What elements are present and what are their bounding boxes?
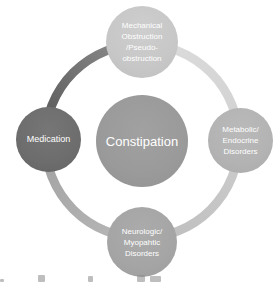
label-line: Neurologic/ bbox=[107, 226, 177, 237]
node-constipation-center: Constipation bbox=[96, 95, 188, 187]
caption-fragment bbox=[137, 275, 145, 282]
node-medication: Medication bbox=[16, 107, 81, 172]
label-line: Obstruction bbox=[106, 31, 178, 42]
label-line: Disorders bbox=[107, 248, 177, 259]
center-label: Constipation bbox=[96, 134, 188, 149]
label-line: Endocrine bbox=[208, 135, 273, 146]
caption-fragment bbox=[38, 275, 45, 282]
label-line: Medication bbox=[16, 134, 81, 145]
label-line: obstruction bbox=[106, 53, 178, 64]
node-mechanical-obstruction: Mechanical Obstruction /Pseudo- obstruct… bbox=[106, 6, 178, 78]
label-line: Metabolic/ bbox=[208, 124, 273, 135]
label-line: Myopahtic bbox=[107, 237, 177, 248]
node-mechanical-label: Mechanical Obstruction /Pseudo- obstruct… bbox=[106, 20, 178, 64]
label-line: Mechanical bbox=[106, 20, 178, 31]
caption-fragment bbox=[88, 276, 93, 282]
label-line: /Pseudo- bbox=[106, 42, 178, 53]
node-metabolic-label: Metabolic/ Endocrine Disorders bbox=[208, 124, 273, 157]
node-medication-label: Medication bbox=[16, 134, 81, 145]
diagram-canvas: Mechanical Obstruction /Pseudo- obstruct… bbox=[0, 0, 278, 282]
node-neurologic-myopathic: Neurologic/ Myopahtic Disorders bbox=[107, 207, 177, 277]
caption-fragment bbox=[150, 276, 161, 282]
node-neurologic-label: Neurologic/ Myopahtic Disorders bbox=[107, 226, 177, 259]
node-metabolic-endocrine: Metabolic/ Endocrine Disorders bbox=[208, 108, 273, 173]
label-line: Disorders bbox=[208, 146, 273, 157]
